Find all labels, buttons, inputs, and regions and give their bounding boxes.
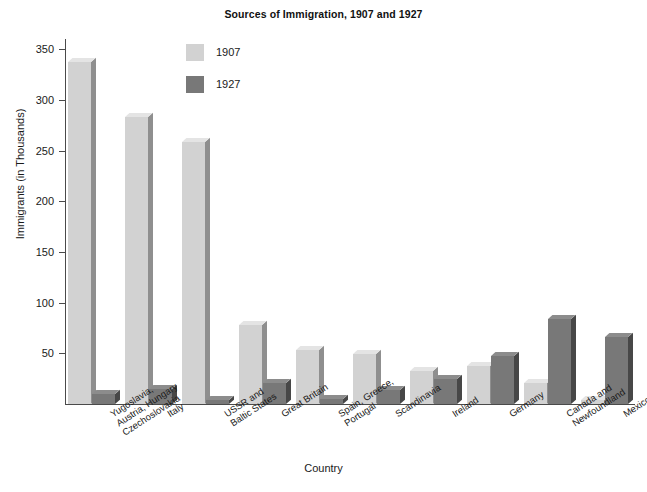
legend-swatch-1907	[186, 44, 204, 61]
bar-1907-0	[68, 62, 91, 404]
bar-side-face	[205, 138, 210, 404]
bar-side-face	[628, 333, 633, 404]
x-axis-title: Country	[0, 462, 647, 474]
bar-face	[125, 117, 148, 404]
legend-entry-1927: 1927	[186, 76, 306, 108]
legend-label-1927: 1927	[216, 78, 240, 90]
x-axis-category-label: Great Britain	[279, 410, 285, 419]
y-axis-tick	[59, 151, 66, 152]
x-axis-category-label: Mexico	[621, 410, 627, 419]
y-axis-tick-label: 200	[2, 195, 54, 207]
bar-face	[92, 394, 115, 404]
y-axis-tick-label: 50	[2, 347, 54, 359]
legend-entry-1907: 1907	[186, 44, 306, 76]
bar-face	[548, 319, 571, 404]
bar-face	[68, 62, 91, 404]
legend-label-1907: 1907	[216, 46, 240, 58]
y-axis-tick-label: 150	[2, 246, 54, 258]
bar-side-face	[91, 58, 96, 404]
x-axis-category-label: Scandinavia	[393, 410, 399, 419]
bar-side-face	[286, 379, 291, 404]
y-axis-tick-label: 250	[2, 145, 54, 157]
bar-face	[182, 142, 205, 404]
bar-side-face	[571, 315, 576, 404]
bar-face	[491, 356, 514, 404]
x-axis-category-label: Italy	[165, 410, 171, 419]
bar-1907-2	[182, 142, 205, 404]
y-axis-line	[65, 39, 66, 405]
bar-1907-1	[125, 117, 148, 404]
chart-legend: 1907 1927	[186, 44, 306, 108]
bar-face	[206, 400, 229, 404]
bar-1927-8	[548, 319, 571, 404]
x-axis-category-label: Germany	[507, 410, 513, 419]
bar-1927-7	[491, 356, 514, 404]
legend-swatch-1927	[186, 76, 204, 93]
bar-1927-4	[320, 399, 343, 404]
y-axis-tick	[59, 201, 66, 202]
x-axis-category-label: Ireland	[450, 410, 456, 419]
chart-title: Sources of Immigration, 1907 and 1927	[0, 8, 647, 20]
immigration-bar-chart: Sources of Immigration, 1907 and 1927 50…	[0, 0, 647, 492]
bar-side-face	[514, 352, 519, 404]
y-axis-tick-label: 300	[2, 94, 54, 106]
y-axis-tick	[59, 252, 66, 253]
y-axis-tick-label: 350	[2, 43, 54, 55]
y-axis-tick	[59, 303, 66, 304]
bar-face	[320, 399, 343, 404]
bar-side-face	[457, 374, 462, 404]
bar-1927-2	[206, 400, 229, 404]
y-axis-title: Immigrants (in Thousands)	[14, 84, 26, 264]
bar-1927-0	[92, 394, 115, 404]
y-axis-tick-label: 100	[2, 297, 54, 309]
bar-side-face	[148, 113, 153, 404]
x-axis-category-label: Canada and Newfoundland	[564, 410, 576, 428]
y-axis-tick	[59, 49, 66, 50]
x-axis-category-label: USSR and Baltic States	[222, 410, 234, 428]
x-axis-category-label: Spain, Greece, Portugal	[336, 410, 348, 428]
y-axis-tick	[59, 353, 66, 354]
y-axis-tick	[59, 100, 66, 101]
x-axis-category-label: Yugoslavia, Austria, Hungary Czechoslova…	[108, 410, 126, 438]
